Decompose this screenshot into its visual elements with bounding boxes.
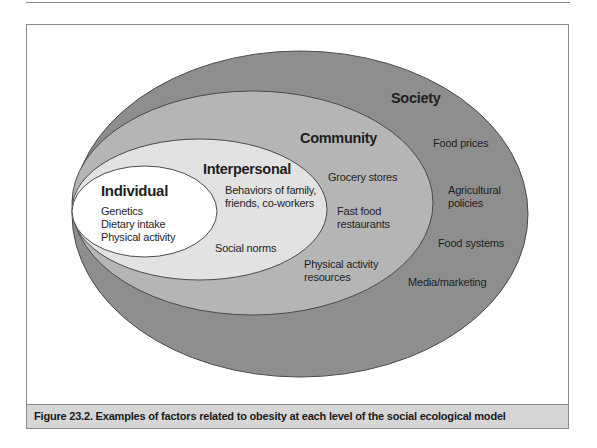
interpersonal-title: Interpersonal xyxy=(203,161,291,177)
society-item-agricultural: Agricultural xyxy=(448,184,501,198)
individual-item-physical-activity: Physical activity xyxy=(101,231,175,245)
figure-caption: Figure 23.2. Examples of factors related… xyxy=(34,410,506,422)
community-item-physical-activity: Physical activity xyxy=(304,258,378,272)
community-item-restaurants: restaurants xyxy=(337,218,390,232)
society-item-food-prices: Food prices xyxy=(433,137,488,151)
community-title: Community xyxy=(300,130,377,146)
society-item-policies: policies xyxy=(448,197,483,211)
society-item-food-systems: Food systems xyxy=(438,237,504,251)
community-item-grocery-stores: Grocery stores xyxy=(328,171,397,185)
interpersonal-item-friends: friends, co-workers xyxy=(225,197,314,211)
interpersonal-item-behaviors: Behaviors of family, xyxy=(225,184,316,198)
community-item-resources: resources xyxy=(304,271,351,285)
society-title: Society xyxy=(391,90,440,106)
individual-item-dietary-intake: Dietary intake xyxy=(101,218,165,232)
community-item-fast-food: Fast food xyxy=(337,205,381,219)
individual-title: Individual xyxy=(101,182,168,199)
society-item-media-marketing: Media/marketing xyxy=(408,276,486,290)
social-ecological-model-diagram xyxy=(0,0,597,448)
caption-bar: Figure 23.2. Examples of factors related… xyxy=(26,404,569,429)
interpersonal-item-social-norms: Social norms xyxy=(215,242,276,256)
individual-item-genetics: Genetics xyxy=(101,205,143,219)
